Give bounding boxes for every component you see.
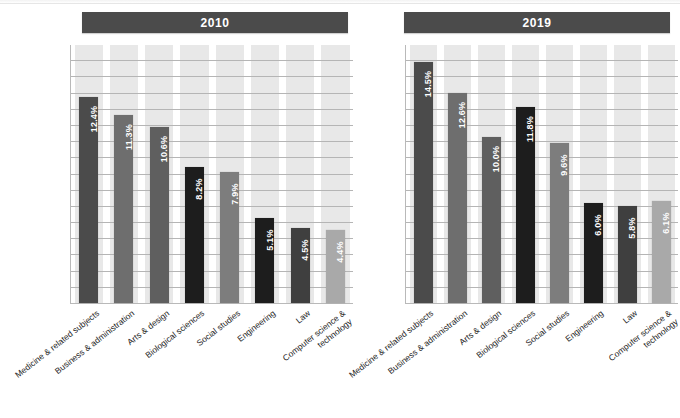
- bar-slot: 10.0%: [474, 45, 508, 303]
- bar-value-label: 14.5%: [423, 70, 433, 97]
- bar-value-label: 11.3%: [124, 124, 134, 150]
- bar-value-label: 5.1%: [265, 229, 275, 250]
- bar-slot: 6.0%: [576, 45, 610, 303]
- bar-slot: 4.5%: [283, 45, 318, 303]
- chart-panels: 2010 12.4%11.3%10.6%8.2%7.9%5.1%4.5%4.4%…: [0, 0, 680, 418]
- bar-value-label: 9.6%: [559, 155, 569, 176]
- bar[interactable]: 9.6%: [550, 143, 569, 303]
- bar-slot: 12.6%: [440, 45, 474, 303]
- bar[interactable]: 8.2%: [185, 167, 204, 303]
- bar-slot: 11.3%: [106, 45, 141, 303]
- bar-value-label: 10.6%: [159, 135, 169, 162]
- bar-slot: 9.6%: [542, 45, 576, 303]
- bar-value-label: 11.8%: [525, 116, 535, 142]
- bar-value-label: 12.4%: [89, 105, 99, 132]
- bar[interactable]: 10.6%: [150, 127, 169, 303]
- bar-value-label: 12.6%: [457, 102, 467, 129]
- bar-slot: 10.6%: [142, 45, 177, 303]
- bar-slot: 14.5%: [406, 45, 440, 303]
- bar[interactable]: 12.6%: [448, 93, 467, 303]
- bar-slot: 5.1%: [247, 45, 282, 303]
- bar[interactable]: 11.8%: [516, 107, 535, 303]
- bar-slot: 11.8%: [508, 45, 542, 303]
- bar-slot: 8.2%: [177, 45, 212, 303]
- year-header-2010: 2010: [82, 12, 348, 33]
- bar[interactable]: 14.5%: [414, 62, 433, 303]
- bar[interactable]: 7.9%: [220, 172, 239, 303]
- bar-slot: 7.9%: [212, 45, 247, 303]
- bar[interactable]: 10.0%: [482, 137, 501, 303]
- bar[interactable]: 4.4%: [326, 230, 345, 303]
- bar-slot: 5.8%: [610, 45, 644, 303]
- bar[interactable]: 12.4%: [79, 97, 98, 303]
- bar-slot: 12.4%: [71, 45, 106, 303]
- category-axis-2010: Medicine & related subjectsBusiness & ad…: [70, 304, 352, 418]
- year-header-2019: 2019: [404, 12, 670, 33]
- bar[interactable]: 4.5%: [291, 228, 310, 303]
- bar-value-label: 10.0%: [491, 145, 501, 172]
- bar-value-label: 4.4%: [335, 241, 345, 262]
- bar[interactable]: 11.3%: [114, 115, 133, 303]
- bar-slot: 6.1%: [644, 45, 678, 303]
- plot-area-2019: 14.5%12.6%10.0%11.8%9.6%6.0%5.8%6.1%: [405, 45, 678, 304]
- bar[interactable]: 6.1%: [652, 201, 671, 303]
- category-axis-2019: Medicine & related subjectsBusiness & ad…: [405, 304, 677, 418]
- bar-value-label: 4.5%: [300, 239, 310, 260]
- bar[interactable]: 5.8%: [618, 206, 637, 303]
- bar-value-label: 6.0%: [593, 214, 603, 235]
- bar-value-label: 7.9%: [230, 183, 240, 204]
- plot-area-2010: 12.4%11.3%10.6%8.2%7.9%5.1%4.5%4.4%: [70, 45, 353, 304]
- bar[interactable]: 6.0%: [584, 203, 603, 303]
- bar-value-label: 6.1%: [661, 213, 671, 234]
- bar-value-label: 5.8%: [627, 218, 637, 239]
- bar-group-2010: 12.4%11.3%10.6%8.2%7.9%5.1%4.5%4.4%: [71, 45, 353, 303]
- bar-slot: 4.4%: [318, 45, 353, 303]
- bar-group-2019: 14.5%12.6%10.0%11.8%9.6%6.0%5.8%6.1%: [406, 45, 678, 303]
- bar-value-label: 8.2%: [194, 178, 204, 199]
- bar[interactable]: 5.1%: [255, 218, 274, 303]
